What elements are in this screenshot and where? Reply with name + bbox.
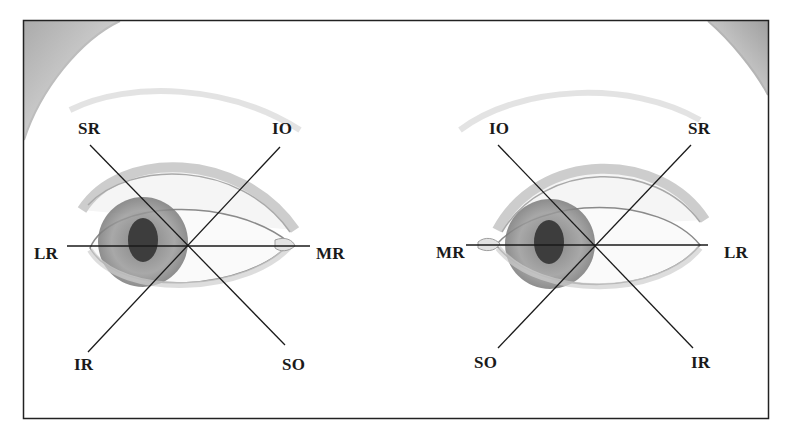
illustration xyxy=(0,0,789,436)
label-left-bottom-left: IR xyxy=(74,356,93,373)
label-right-bottom-right: IR xyxy=(691,354,710,371)
label-right-bottom-left: SO xyxy=(474,354,497,371)
eye-muscle-diagram: SR IO LR MR IR SO IO SR MR LR SO IR xyxy=(0,0,789,436)
label-right-left: MR xyxy=(436,244,465,261)
label-left-top-left: SR xyxy=(78,120,100,137)
label-left-right: MR xyxy=(316,245,345,262)
label-right-top-right: SR xyxy=(688,120,710,137)
label-right-right: LR xyxy=(724,244,748,261)
label-left-left: LR xyxy=(34,245,58,262)
label-left-top-right: IO xyxy=(272,120,292,137)
label-right-top-left: IO xyxy=(489,120,509,137)
label-left-bottom-right: SO xyxy=(282,356,305,373)
